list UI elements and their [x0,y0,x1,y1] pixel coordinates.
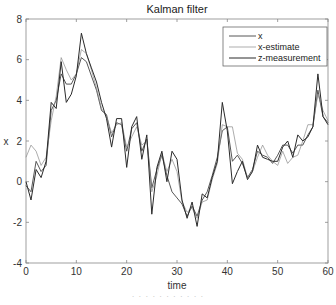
figure-caption: · · · · · · · · · · · [0,292,336,301]
legend-entry: x-estimate [258,42,300,52]
x-tick-label: 0 [23,266,29,277]
chart-title: Kalman filter [146,3,207,15]
x-tick-label: 10 [71,266,83,277]
y-tick-label: 2 [16,136,22,147]
y-tick-label: 6 [16,54,22,65]
legend-entry: z-measurement [258,53,321,63]
legend: xx-estimatez-measurement [223,27,327,66]
x-axis-label: time [168,280,187,291]
kalman-chart: Kalman filter 0102030405060-4-202468 tim… [0,0,336,305]
y-tick-label: -2 [13,217,22,228]
x-tick-label: 30 [171,266,183,277]
y-axis-label: x [4,136,9,147]
x-tick-label: 40 [222,266,234,277]
y-tick-label: 8 [16,14,22,25]
y-tick-label: 4 [16,95,22,106]
y-tick-label: -4 [13,258,22,269]
x-tick-label: 20 [121,266,133,277]
x-tick-label: 50 [272,266,284,277]
x-tick-label: 60 [322,266,334,277]
legend-entry: x [258,31,263,41]
y-tick-label: 0 [16,176,22,187]
